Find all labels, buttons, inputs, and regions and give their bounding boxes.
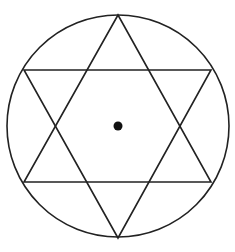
diagram-canvas: Hexagram inscribed in a circle with cent… bbox=[0, 0, 235, 252]
downward-triangle bbox=[24, 70, 211, 238]
hexagram-diagram bbox=[0, 0, 235, 252]
center-point bbox=[114, 122, 123, 131]
upward-triangle bbox=[24, 15, 211, 182]
